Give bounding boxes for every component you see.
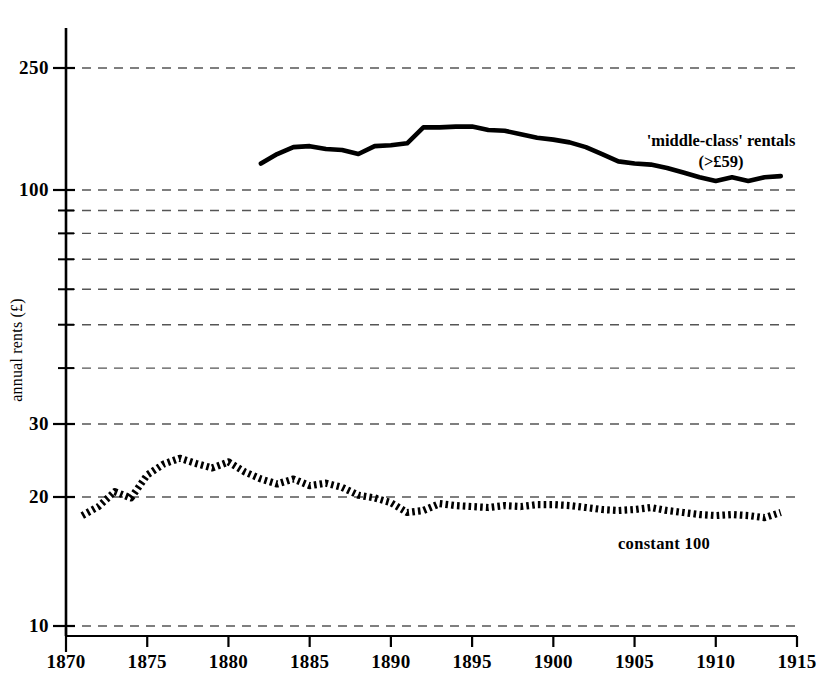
- series-lines-group: [82, 127, 781, 518]
- y-tick-label-30: 30: [0, 413, 49, 435]
- series-line-constant-100: [82, 458, 781, 517]
- annotation-middle-class-rentals: 'middle-class' rentals (>£59): [626, 130, 816, 172]
- annotation-middle-class-line1: 'middle-class' rentals: [647, 131, 796, 150]
- chart-container: annual rents (£) 250100302010 1870187518…: [0, 0, 826, 682]
- x-tick-label-1885: 1885: [278, 650, 342, 674]
- x-tick-label-1890: 1890: [359, 650, 423, 674]
- x-tick-label-1875: 1875: [115, 650, 179, 674]
- chart-plot-area: [0, 0, 826, 682]
- y-tick-label-250: 250: [0, 57, 49, 79]
- y-tick-label-20: 20: [0, 486, 49, 508]
- y-ticks-group: [53, 68, 75, 626]
- x-tick-label-1880: 1880: [196, 650, 260, 674]
- x-tick-label-1905: 1905: [603, 650, 667, 674]
- annotation-middle-class-line2: (>£59): [626, 151, 816, 172]
- x-tick-label-1870: 1870: [34, 650, 98, 674]
- y-tick-label-100: 100: [0, 179, 49, 201]
- x-ticks-group: [66, 628, 797, 652]
- x-tick-label-1895: 1895: [440, 650, 504, 674]
- annotation-constant-100: constant 100: [618, 533, 710, 554]
- x-tick-label-1900: 1900: [521, 650, 585, 674]
- x-tick-label-1910: 1910: [684, 650, 748, 674]
- y-tick-label-10: 10: [0, 615, 49, 637]
- x-tick-label-1915: 1915: [765, 650, 826, 674]
